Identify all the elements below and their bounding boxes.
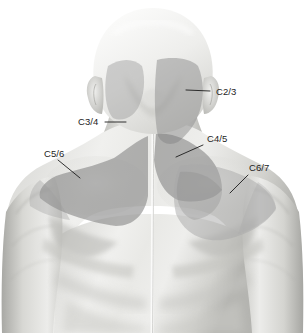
- label-text-c2-3: C2/3: [216, 86, 236, 97]
- label-c3-4: C3/4: [78, 116, 126, 127]
- leader-line-c4-5: [176, 145, 203, 157]
- label-text-c6-7: C6/7: [249, 162, 269, 173]
- label-c4-5: C4/5: [176, 133, 227, 157]
- label-text-c5-6: C5/6: [44, 148, 64, 159]
- label-c2-3: C2/3: [186, 86, 236, 97]
- label-text-c4-5: C4/5: [207, 133, 227, 144]
- leader-line-c6-7: [230, 175, 248, 193]
- label-c6-7: C6/7: [230, 162, 269, 193]
- leader-line-c5-6: [58, 160, 80, 178]
- label-c5-6: C5/6: [44, 148, 80, 178]
- referred-pain-figure: C2/3 C3/4 C4/5 C5/6 C6/7: [0, 0, 307, 333]
- label-text-c3-4: C3/4: [78, 116, 98, 127]
- label-layer: C2/3 C3/4 C4/5 C5/6 C6/7: [0, 0, 307, 333]
- leader-line-c2-3: [186, 90, 210, 91]
